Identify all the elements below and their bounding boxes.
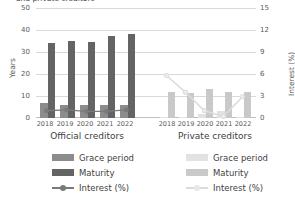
chart-title: and private creditors bbox=[16, 0, 94, 3]
legend-swatch-icon bbox=[186, 154, 208, 161]
interest-line-overlay: Interest (%) 2018: 1Interest (%) 2019: 1… bbox=[36, 8, 256, 118]
interest-point-official[interactable]: Interest (%) 2019: 1.1 bbox=[65, 108, 69, 112]
interest-point-official[interactable]: Interest (%) 2020: 0.9 bbox=[85, 109, 89, 113]
interest-point-private[interactable]: Interest (%) 2019: 3.5 bbox=[183, 90, 187, 94]
legend-label: Grace period bbox=[213, 153, 268, 163]
x-axis-official: 20182019202020212022 bbox=[36, 120, 144, 130]
y-tick-left-20: 20 bbox=[8, 71, 30, 78]
y-tick-left-30: 30 bbox=[8, 49, 30, 56]
legend-official: Grace period Maturity Interest (%) bbox=[52, 150, 134, 195]
plot-area: Interest (%) 2018: 1Interest (%) 2019: 1… bbox=[36, 8, 256, 118]
legend-item-interest-official[interactable]: Interest (%) bbox=[52, 180, 134, 195]
group-label-private: Private creditors bbox=[150, 131, 280, 141]
y-tick-left-10: 10 bbox=[8, 93, 30, 100]
legend-line-marker-icon bbox=[186, 184, 208, 191]
legend-label: Interest (%) bbox=[213, 183, 263, 193]
y-tick-right-0: 0 bbox=[260, 115, 282, 122]
legend-line-marker-icon bbox=[52, 184, 74, 191]
y-tick-right-12: 12 bbox=[260, 27, 282, 34]
legend-label: Maturity bbox=[79, 168, 114, 178]
legend-swatch-icon bbox=[186, 169, 208, 176]
interest-point-official[interactable]: Interest (%) 2022: 1.1 bbox=[125, 108, 129, 112]
interest-point-official[interactable]: Interest (%) 2021: 0.9 bbox=[105, 109, 109, 113]
legend-item-maturity-private[interactable]: Maturity bbox=[186, 165, 268, 180]
interest-point-private[interactable]: Interest (%) 2022: 2.9 bbox=[240, 95, 244, 99]
x-tick-label: 2019 bbox=[54, 120, 76, 128]
legend-swatch-icon bbox=[52, 169, 74, 176]
y-tick-left-50: 50 bbox=[8, 5, 30, 12]
interest-point-private[interactable]: Interest (%) 2020: 1 bbox=[202, 109, 206, 113]
y-tick-right-9: 9 bbox=[260, 49, 282, 56]
x-tick-label: 2020 bbox=[74, 120, 96, 128]
interest-point-private[interactable]: Interest (%) 2018: 5.8 bbox=[164, 73, 168, 77]
x-tick-label: 2022 bbox=[232, 120, 254, 128]
legend-label: Maturity bbox=[213, 168, 248, 178]
legend-item-grace-private[interactable]: Grace period bbox=[186, 150, 268, 165]
y-tick-right-6: 6 bbox=[260, 71, 282, 78]
interest-point-official[interactable]: Interest (%) 2018: 1 bbox=[45, 109, 49, 113]
y-axis-label-right: Interest (%) bbox=[287, 52, 295, 96]
legend-item-maturity-official[interactable]: Maturity bbox=[52, 165, 134, 180]
legend-private: Grace period Maturity Interest (%) bbox=[186, 150, 268, 195]
x-tick-label: 2021 bbox=[94, 120, 116, 128]
legend-item-grace-official[interactable]: Grace period bbox=[52, 150, 134, 165]
x-tick-label: 2018 bbox=[34, 120, 56, 128]
y-tick-right-3: 3 bbox=[260, 93, 282, 100]
group-label-official: Official creditors bbox=[22, 131, 152, 141]
legend-swatch-icon bbox=[52, 154, 74, 161]
y-tick-left-0: 0 bbox=[8, 115, 30, 122]
x-axis-private: 20182019202020212022 bbox=[158, 120, 258, 130]
legend-item-interest-private[interactable]: Interest (%) bbox=[186, 180, 268, 195]
y-tick-right-15: 15 bbox=[260, 5, 282, 12]
legend-label: Interest (%) bbox=[79, 183, 129, 193]
x-tick-label: 2022 bbox=[114, 120, 136, 128]
y-tick-left-40: 40 bbox=[8, 27, 30, 34]
interest-point-private[interactable]: Interest (%) 2021: 0.2 bbox=[221, 114, 225, 118]
chart-root: and private creditors Years Interest (%)… bbox=[0, 0, 295, 199]
legend-label: Grace period bbox=[79, 153, 134, 163]
